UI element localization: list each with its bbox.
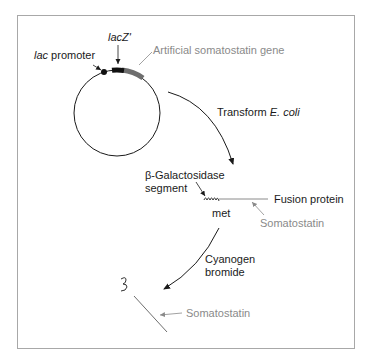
somatostatin-label-2: Somatostatin [186, 307, 250, 320]
lac-promoter-label: lac promoter [34, 49, 95, 62]
somatostatin-label-1: Somatostatin [260, 217, 324, 230]
gene-pointer [139, 52, 152, 65]
transform-arrow [168, 92, 233, 164]
somatostatin-gene-segment [122, 70, 143, 78]
lacz-segment [112, 70, 124, 71]
bgal-label-line2: segment [145, 182, 187, 195]
bgal-pointer [196, 182, 205, 196]
promoter-text: promoter [48, 49, 95, 61]
plasmid [74, 69, 160, 156]
somatostatin-pointer-2 [160, 313, 182, 315]
lac-promoter-pointer [93, 65, 101, 70]
artificial-gene-label: Artificial somatostatin gene [153, 44, 284, 57]
cyanogen-label-line2: bromide [205, 266, 245, 279]
free-somatostatin [134, 296, 167, 332]
met-label: met [212, 207, 230, 220]
cleaved-bgal-squiggle [121, 278, 127, 291]
ecoli-text: E. coli [270, 106, 300, 118]
bgal-squiggle [204, 198, 219, 201]
bgal-label-line1: β-Galactosidase [145, 169, 225, 182]
lac-promoter-dot [101, 69, 107, 75]
transform-text: Transform [217, 106, 270, 118]
cyanogen-label-line1: Cyanogen [205, 253, 255, 266]
lacz-label: lacZ' [108, 31, 131, 44]
transform-label: Transform E. coli [217, 106, 300, 119]
somatostatin-pointer-1 [252, 202, 264, 215]
lac-italic: lac [34, 49, 48, 61]
fusion-protein [204, 198, 268, 201]
fusion-protein-label: Fusion protein [274, 193, 344, 206]
